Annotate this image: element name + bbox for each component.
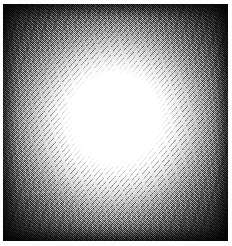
radial-glow-halo	[3, 4, 228, 241]
figure-page	[0, 0, 232, 246]
scanned-image-plate	[3, 4, 228, 241]
